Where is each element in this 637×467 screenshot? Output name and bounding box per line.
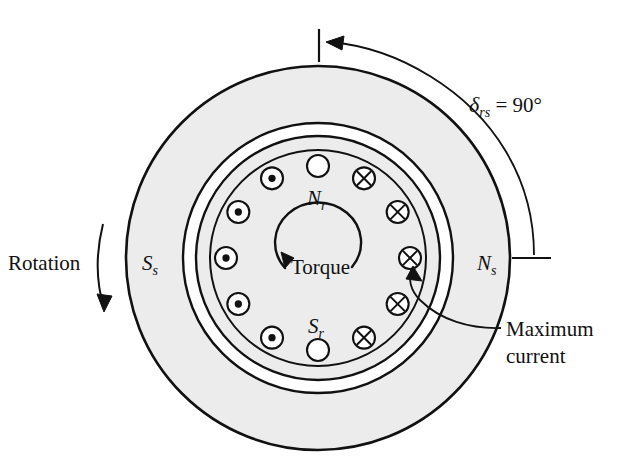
stator-south-symbol: S xyxy=(142,251,153,275)
torque-label: Torque xyxy=(291,255,350,279)
rotor-north-symbol: N xyxy=(306,186,322,210)
rotor-conductor-cross-2 xyxy=(387,201,409,223)
maximum-current-label-line2: current xyxy=(506,344,566,368)
rotor-north-subscript: r xyxy=(321,198,327,213)
machine-cross-section-diagram: δrs = 90° Nr Sr Ss Ns Torque Rotation Ma… xyxy=(0,0,637,467)
rotor-conductor-cross-4 xyxy=(387,293,409,315)
stator-north-symbol: N xyxy=(476,251,492,275)
rotor-conductor-dot-10 xyxy=(227,201,249,223)
angle-arc-arrowhead xyxy=(326,36,344,50)
rotor-conductor-dot-7 xyxy=(261,327,283,349)
rotor-conductor-dot-8 xyxy=(227,293,249,315)
rotor-conductor-empty-0 xyxy=(307,155,329,177)
rotation-label: Rotation xyxy=(8,251,81,275)
current-out-of-page-dot-icon xyxy=(222,254,229,261)
torque-angle-value: = 90° xyxy=(490,93,542,117)
rotor-conductor-cross-3 xyxy=(399,247,421,269)
stator-south-subscript: s xyxy=(153,263,159,278)
current-out-of-page-dot-icon xyxy=(235,300,242,307)
rotor-conductor-cross-1 xyxy=(353,167,375,189)
rotor-conductor-empty-6 xyxy=(307,339,329,361)
figure-canvas: δrs = 90° Nr Sr Ss Ns Torque Rotation Ma… xyxy=(0,0,637,467)
stator-north-subscript: s xyxy=(491,263,497,278)
maximum-current-label-line1: Maximum xyxy=(506,317,594,341)
rotor-conductor-dot-11 xyxy=(261,167,283,189)
current-out-of-page-dot-icon xyxy=(235,208,242,215)
rotor-conductor-cross-5 xyxy=(353,327,375,349)
torque-angle-subscript: rs xyxy=(479,105,490,120)
torque-angle-label: δrs = 90° xyxy=(469,92,542,120)
current-out-of-page-dot-icon xyxy=(268,175,275,182)
rotor-conductor-dot-9 xyxy=(215,247,237,269)
rotation-annotation xyxy=(97,224,112,312)
rotation-arrowhead xyxy=(97,294,112,312)
conductor-outline xyxy=(307,155,329,177)
rotor-south-subscript: r xyxy=(319,326,325,341)
rotor-south-symbol: S xyxy=(308,314,319,338)
conductor-outline xyxy=(307,339,329,361)
current-out-of-page-dot-icon xyxy=(268,334,275,341)
